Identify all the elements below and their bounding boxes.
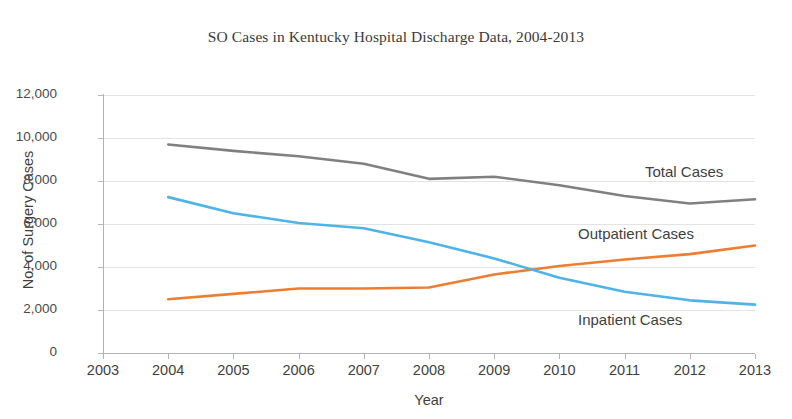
gridline [103,95,755,96]
x-tick-mark [494,354,495,359]
x-tick-mark [429,354,430,359]
x-tick-label: 2007 [331,362,397,378]
x-tick-label: 2012 [657,362,723,378]
x-axis-title: Year [103,392,755,408]
gridline [103,181,755,182]
line-chart-figure: SO Cases in Kentucky Hospital Discharge … [0,0,792,419]
x-tick-mark [103,354,104,359]
gridline [103,138,755,139]
x-tick-label: 2005 [200,362,266,378]
chart-title: SO Cases in Kentucky Hospital Discharge … [0,28,792,46]
x-tick-label: 2006 [266,362,332,378]
x-tick-label: 2013 [722,362,788,378]
x-tick-mark [690,354,691,359]
x-tick-label: 2008 [396,362,462,378]
y-tick-label: 10,000 [0,129,57,144]
x-tick-mark [233,354,234,359]
y-axis-line [103,94,104,354]
x-tick-label: 2011 [592,362,658,378]
x-tick-mark [299,354,300,359]
y-tick-label: 6,000 [0,215,57,230]
series-label-total-cases: Total Cases [645,163,723,180]
y-tick-label: 4,000 [0,258,57,273]
series-label-inpatient-cases: Inpatient Cases [578,311,682,328]
y-tick-label: 12,000 [0,86,57,101]
x-tick-label: 2009 [461,362,527,378]
y-tick-label: 8,000 [0,172,57,187]
x-tick-label: 2003 [70,362,136,378]
x-tick-label: 2004 [135,362,201,378]
series-label-outpatient-cases: Outpatient Cases [578,225,694,242]
x-tick-mark [559,354,560,359]
x-tick-label: 2010 [526,362,592,378]
gridline [103,267,755,268]
x-tick-mark [755,354,756,359]
x-tick-mark [364,354,365,359]
y-tick-label: 2,000 [0,301,57,316]
x-tick-mark [168,354,169,359]
y-tick-label: 0 [0,344,57,359]
x-tick-mark [625,354,626,359]
